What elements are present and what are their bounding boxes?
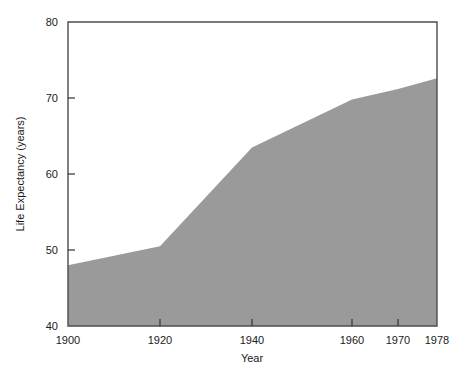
y-tick-label: 70 (46, 92, 58, 104)
life-expectancy-area-chart: 8070605040 190019201940196019701978 Year… (0, 0, 461, 376)
y-tick-label: 50 (46, 244, 58, 256)
y-tick-label: 80 (46, 16, 58, 28)
y-tick-label: 40 (46, 320, 58, 332)
y-axis-title: Life Expectancy (years) (14, 117, 26, 232)
x-axis-title: Year (241, 352, 264, 364)
y-axis-tick-labels: 8070605040 (46, 16, 58, 332)
x-tick-label: 1920 (148, 334, 172, 346)
x-tick-label: 1940 (240, 334, 264, 346)
y-tick-label: 60 (46, 168, 58, 180)
x-tick-label: 1960 (340, 334, 364, 346)
x-tick-label: 1970 (386, 334, 410, 346)
x-tick-label: 1900 (56, 334, 80, 346)
x-axis-tick-labels: 190019201940196019701978 (56, 334, 449, 346)
x-tick-label: 1978 (425, 334, 449, 346)
